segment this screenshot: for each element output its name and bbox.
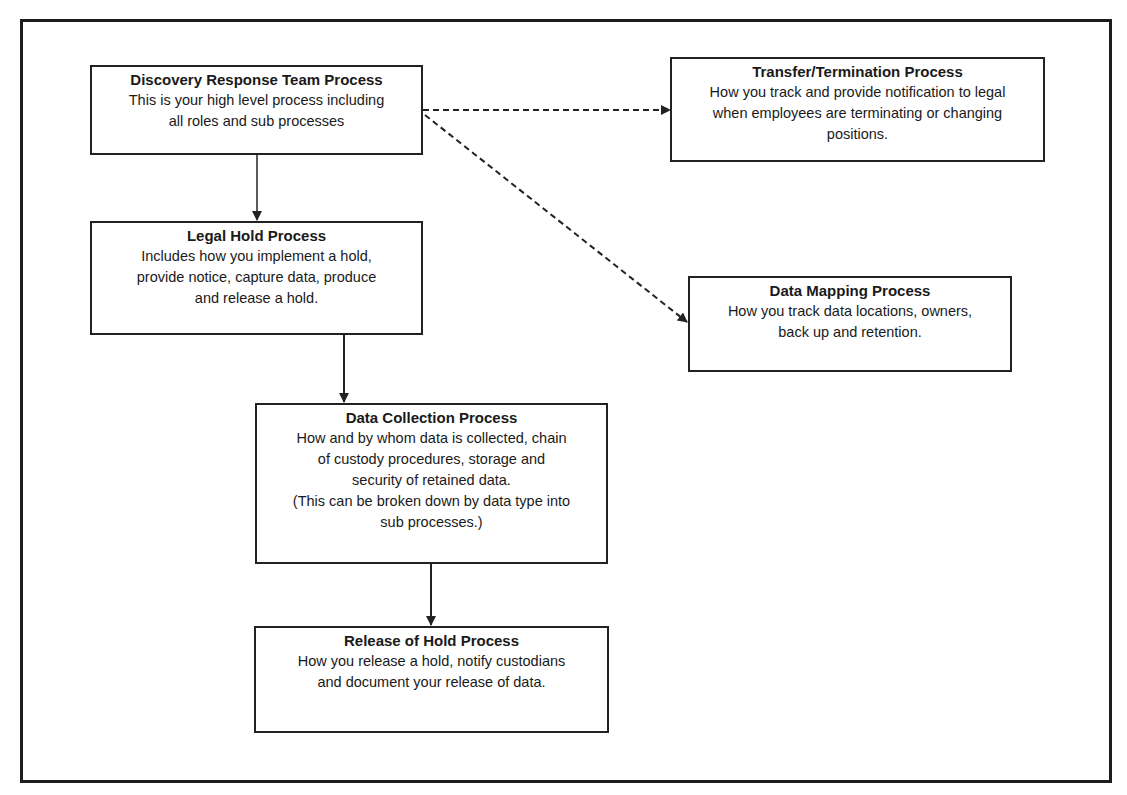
node-title: Data Collection Process <box>257 407 606 428</box>
node-text: and document your release of data. <box>256 672 607 693</box>
node-data-mapping: Data Mapping Process How you track data … <box>688 276 1012 372</box>
node-text: when employees are terminating or changi… <box>672 103 1043 124</box>
node-text: This is your high level process includin… <box>92 90 421 111</box>
node-text: (This can be broken down by data type in… <box>257 491 606 512</box>
node-text: How you track and provide notification t… <box>672 82 1043 103</box>
node-text: of custody procedures, storage and <box>257 449 606 470</box>
node-transfer-termination: Transfer/Termination Process How you tra… <box>670 57 1045 162</box>
node-text: How you track data locations, owners, <box>690 301 1010 322</box>
node-title: Transfer/Termination Process <box>672 61 1043 82</box>
node-text: provide notice, capture data, produce <box>92 267 421 288</box>
node-text: and release a hold. <box>92 288 421 309</box>
node-release-of-hold: Release of Hold Process How you release … <box>254 626 609 733</box>
node-text: How you release a hold, notify custodian… <box>256 651 607 672</box>
node-text: Includes how you implement a hold, <box>92 246 421 267</box>
node-text: How and by whom data is collected, chain <box>257 428 606 449</box>
node-data-collection: Data Collection Process How and by whom … <box>255 403 608 564</box>
node-text: all roles and sub processes <box>92 111 421 132</box>
node-text: sub processes.) <box>257 512 606 533</box>
dashed-arrow-discovery-to-data-mapping <box>425 115 687 322</box>
node-discovery-response-team: Discovery Response Team Process This is … <box>90 65 423 155</box>
node-legal-hold: Legal Hold Process Includes how you impl… <box>90 221 423 335</box>
node-title: Data Mapping Process <box>690 280 1010 301</box>
node-title: Legal Hold Process <box>92 225 421 246</box>
node-text: back up and retention. <box>690 322 1010 343</box>
node-text: positions. <box>672 124 1043 145</box>
node-text: security of retained data. <box>257 470 606 491</box>
node-title: Release of Hold Process <box>256 630 607 651</box>
node-title: Discovery Response Team Process <box>92 69 421 90</box>
